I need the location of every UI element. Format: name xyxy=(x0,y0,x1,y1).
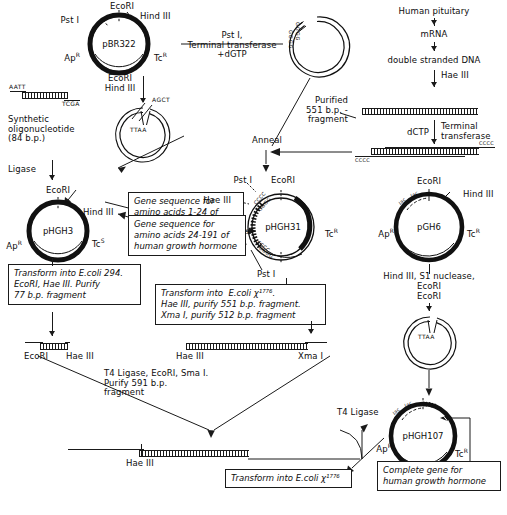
annotation-gene-24-191: Gene sequence for amino acids 24-191 of … xyxy=(128,215,246,256)
arrow-transform-294-to-fragment xyxy=(49,331,55,336)
reaction-ecori-hindiii: EcoRI Hind III xyxy=(105,74,136,93)
plasmid-pgh6-label: pGH6 xyxy=(417,222,441,232)
fragment-77bp-right-site: Hae III xyxy=(66,352,94,362)
phgh31-psti-top-label: Pst I xyxy=(234,176,252,186)
tailed-duplex-bottom-strand xyxy=(355,156,465,157)
reaction-pst-terminal-transferase: Pst I, Terminal transferase +dGTP xyxy=(187,31,276,60)
fragment-591bp-duplex xyxy=(139,450,249,457)
fragment-77bp-left-site: EcoRI xyxy=(24,352,48,362)
tail-cccc-right: CCCC xyxy=(479,140,494,146)
reaction-hindiii-s1-ecori: Hind III, S1 nuclease, EcoRI xyxy=(383,272,474,291)
phgh31-haeiii-top-label: Hae III xyxy=(203,196,231,206)
reaction-ligase-label: Ligase xyxy=(8,165,36,175)
tailed-duplex-top-strand xyxy=(385,147,495,148)
reaction-dctp-label: dCTP xyxy=(407,128,429,138)
reaction-haeiii-label: Hae III xyxy=(441,71,469,81)
plasmid-phgh3-label: pHGH3 xyxy=(43,226,73,236)
pathway-double-stranded-dna: double stranded DNA xyxy=(388,56,481,66)
protocol-transform-294: Transform into E.coli 294. EcoRI, Hae II… xyxy=(8,264,141,305)
phgh107-tcr-label: TcR xyxy=(455,448,468,459)
pgh6-tcr-label: TcR xyxy=(467,228,480,239)
oligo-left-overhang xyxy=(10,91,26,92)
oligo-caption: Synthetic oligonucleotide (84 b.p.) xyxy=(8,115,75,144)
arrow-terminal-transferase xyxy=(431,139,437,144)
pgh6-apr-label: ApR xyxy=(378,228,394,239)
phgh107-apr-label: ApR xyxy=(376,443,392,454)
tailed-plasmid-tail-sequence-2: GGGG xyxy=(288,30,294,50)
plasmid-pgh6-linearized xyxy=(399,314,461,372)
plasmid-linearized-hindiii xyxy=(110,105,176,167)
plasmid-phgh31-label: pHGH31 xyxy=(265,222,301,232)
reaction-t4-ligase-label: T4 Ligase xyxy=(337,408,379,418)
oligo-left-sequence: AATT xyxy=(9,83,26,90)
pbr322-ecori-label: EcoRI xyxy=(110,2,134,12)
fragment-512bp-duplex xyxy=(186,343,308,350)
fragment-512bp-right-site: Xma I xyxy=(298,352,323,362)
oligo-right-sequence: TCGA xyxy=(62,100,80,107)
pbr322-hindiii-label: Hind III xyxy=(140,12,171,22)
arrow-mrna-to-dsdna xyxy=(431,46,437,51)
reaction-ecori-step: EcoRI xyxy=(417,292,441,302)
annotation-complete-gene: Complete gene for human growth hormone xyxy=(377,461,501,491)
pgh6-ecori-label: EcoRI xyxy=(417,177,441,187)
fragment-77bp-right-strand xyxy=(65,342,70,343)
tail-cccc-left: CCCC xyxy=(355,157,370,163)
phgh31-ecori-label: EcoRI xyxy=(271,176,295,186)
protocol-t4-ligase-ecori-smai: T4 Ligase, EcoRI, Sma I. Purify 591 b.p.… xyxy=(104,369,208,398)
phgh3-hindiii-label: Hind III xyxy=(83,208,114,218)
synthetic-oligo-duplex xyxy=(22,92,68,99)
phgh3-apr-label: ApR xyxy=(6,240,22,251)
fragment-591bp-left-strand xyxy=(68,449,144,450)
fragment-551bp-duplex xyxy=(362,108,478,115)
phgh3-ecori-label: EcoRI xyxy=(46,186,70,196)
plasmid-phgh107-label: pHGH107 xyxy=(403,431,444,441)
fragment-77bp-duplex xyxy=(40,343,68,350)
phgh31-psti-bottom-label: Pst I xyxy=(257,270,275,280)
arrow-ligase xyxy=(49,175,55,180)
tailed-plasmid-tail-sequence: GGGG xyxy=(295,22,301,42)
arrow-haeiii-digest xyxy=(431,82,437,87)
pbr322-tcr-label: TcR xyxy=(154,52,167,63)
fragment-77bp-left-strand xyxy=(25,342,43,343)
arrow-transform-x1776-to-fragment xyxy=(308,329,314,334)
pbr322-psti-label: Pst I xyxy=(61,16,79,26)
fragment-512bp-left-site: Hae III xyxy=(176,352,204,362)
arrow-pgh6-digest xyxy=(426,306,432,311)
pgh6-hindiii-label: Hind III xyxy=(463,190,494,200)
pbr322-apr-label: ApR xyxy=(64,52,80,63)
purified-fragment-caption: Purified 551 b.p. - fragment xyxy=(306,96,348,125)
phgh3-tcs-label: TcS xyxy=(92,238,105,249)
reaction-terminal-transferase-label: Terminal transferase xyxy=(441,122,491,141)
pathway-human-pituitary: Human pituitary xyxy=(399,7,470,17)
linearized-plasmid-ttaa: TTAA xyxy=(130,126,147,133)
linearized-plasmid-agct: AGCT xyxy=(152,96,170,103)
protocol-transform-x1776: Transform into E.coli χ¹⁷⁷⁶. Hae III, pu… xyxy=(155,284,326,325)
protocol-transform-final: Transform into E.coli χ¹⁷⁷⁶ xyxy=(225,469,352,488)
phgh31-tcr-label: TcR xyxy=(325,228,338,239)
pathway-mrna: mRNA xyxy=(421,30,448,40)
reaction-anneal-label: Anneal xyxy=(252,136,282,146)
fragment-551bp-tailed-duplex xyxy=(371,148,479,155)
arrow-ecori-hindiii-digest xyxy=(140,98,146,103)
fragment-512bp-right-strand xyxy=(305,342,327,343)
fragment-591bp-site: Hae III xyxy=(126,459,154,469)
pgh6-linearized-ttaa: TTAA xyxy=(418,333,435,340)
plasmid-pbr322-label: pBR322 xyxy=(102,39,135,49)
